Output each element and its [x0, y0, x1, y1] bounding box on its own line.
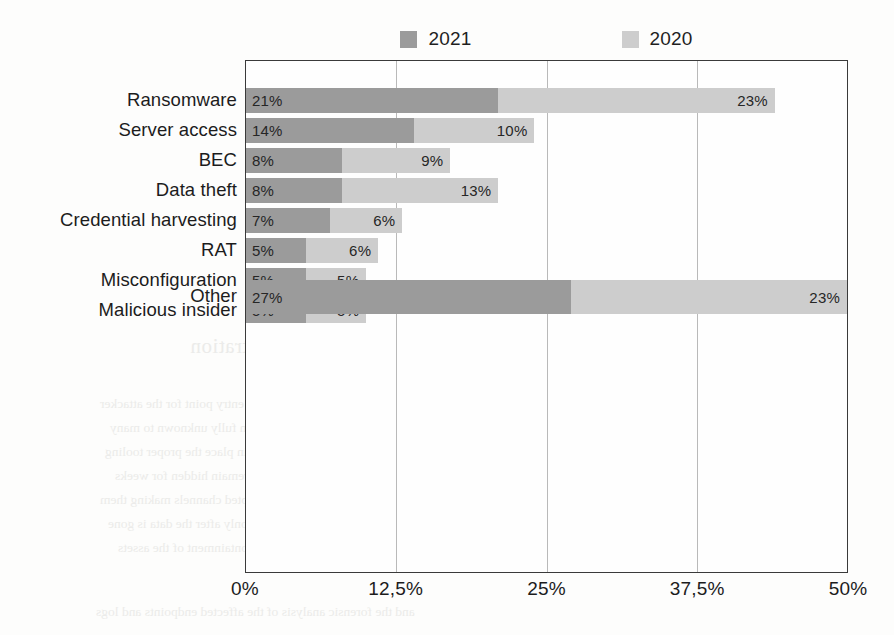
x-tick-25: 25% [527, 578, 566, 600]
legend-label-2020: 2020 [650, 28, 693, 50]
x-tick-12-5: 12,5% [368, 578, 423, 600]
bar-segment-2020: 13% [342, 178, 498, 203]
bar-value-label: 21% [252, 92, 283, 109]
bar-row: 8%9% [246, 148, 847, 173]
category-label-rat: RAT [0, 237, 237, 262]
bar-row: 21%23% [246, 88, 847, 113]
chart-legend: 2021 2020 [245, 24, 848, 54]
bar-row: 14%10% [246, 118, 847, 143]
value-axis-labels: 0% 12,5% 25% 37,5% 50% [245, 578, 848, 608]
legend-swatch-2020 [622, 31, 639, 48]
bar-value-label: 9% [421, 152, 443, 169]
legend-label-2021: 2021 [428, 28, 471, 50]
bar-segment-2021: 21% [246, 88, 498, 113]
x-tick-37-5: 37,5% [670, 578, 725, 600]
legend-item-2020: 2020 [622, 28, 693, 50]
bar-segment-2021: 5% [246, 238, 306, 263]
bar-value-label: 8% [252, 152, 274, 169]
bar-row: 5%6% [246, 238, 847, 263]
bar-segment-2021: 8% [246, 178, 342, 203]
bar-segment-2021: 14% [246, 118, 414, 143]
bar-value-label: 10% [497, 122, 528, 139]
bar-segment-2021: 7% [246, 208, 330, 233]
category-label-other: Other [0, 279, 237, 313]
bar-value-label: 8% [252, 182, 274, 199]
category-axis-labels: Ransomware Server access BEC Data theft … [0, 60, 237, 573]
bar-value-label: 13% [461, 182, 492, 199]
bar-segment-2021: 8% [246, 148, 342, 173]
bar-row: 7%6% [246, 208, 847, 233]
bar-segment-2020: 6% [330, 208, 402, 233]
bar-segment-2020: 23% [571, 280, 847, 314]
category-label-bec: BEC [0, 147, 237, 172]
bar-value-label: 23% [737, 92, 768, 109]
bar-segment-2020: 23% [498, 88, 774, 113]
x-tick-50: 50% [829, 578, 868, 600]
bar-segment-2020: 10% [414, 118, 534, 143]
category-label-data-theft: Data theft [0, 177, 237, 202]
bar-value-label: 6% [349, 242, 371, 259]
bar-value-label: 6% [373, 212, 395, 229]
plot-area: 21%23%14%10%8%9%8%13%7%6%5%6%5%5%5%5%27%… [245, 60, 848, 573]
bar-segment-2020: 6% [306, 238, 378, 263]
stacked-bar-chart: 2021 2020 Ransomware Server access BEC D… [0, 0, 894, 635]
category-label-ransomware: Ransomware [0, 87, 237, 112]
bar-segment-2020: 9% [342, 148, 450, 173]
bar-row: 8%13% [246, 178, 847, 203]
bar-value-label: 7% [252, 212, 274, 229]
bar-rows: 21%23%14%10%8%9%8%13%7%6%5%6%5%5%5%5%27%… [246, 61, 847, 572]
category-label-credential-harvesting: Credential harvesting [0, 207, 237, 232]
bar-value-label: 5% [252, 242, 274, 259]
category-label-server-access: Server access [0, 117, 237, 142]
bar-segment-2021: 27% [246, 280, 571, 314]
bar-value-label: 27% [252, 289, 283, 306]
legend-item-2021: 2021 [400, 28, 471, 50]
bar-value-label: 14% [252, 122, 283, 139]
bar-value-label: 23% [809, 289, 840, 306]
bar-row: 27%23% [246, 280, 847, 314]
legend-swatch-2021 [400, 31, 417, 48]
x-tick-0: 0% [231, 578, 259, 600]
